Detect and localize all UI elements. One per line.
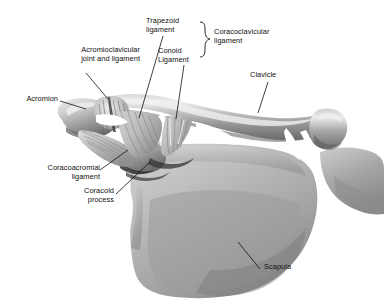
leader-acromioclavicular (86, 73, 108, 99)
label-conoid: Conoid Ligament (158, 46, 208, 64)
label-trapezoid: Trapezoid ligament (146, 16, 200, 34)
label-acromioclavicular: Acromioclavicular joint and ligament (38, 45, 140, 63)
label-coracoid: Coracoid process (56, 186, 114, 204)
thorax-edge (320, 148, 384, 215)
label-acromion: Acromion (8, 94, 58, 103)
label-coracoclavicular: Coracoclavicular ligament (214, 27, 296, 45)
label-clavicle: Clavicle (250, 70, 296, 79)
label-coracoacromial: Coracoacromial ligament (22, 163, 100, 181)
anatomy-figure: Acromioclavicular joint and ligament Acr… (0, 0, 384, 300)
label-scapula: Scapula (264, 262, 310, 271)
leader-clavicle (258, 82, 268, 113)
